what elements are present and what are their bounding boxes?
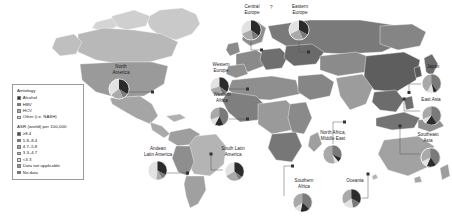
legend-swatch-hcv [17, 109, 21, 113]
leader-line-north-africa-middle-east [332, 118, 346, 146]
legend-item-asr-4: 3.3–4.7 [17, 150, 80, 156]
legend-label-asr-1: ≥8.4 [23, 131, 31, 137]
leader-line-andean-latin-america [167, 168, 191, 178]
legend-swatch-asr-1 [17, 132, 21, 136]
region-label-central-europe: CentralEurope [236, 4, 268, 16]
pie-chart-north-africa-middle-east [322, 144, 343, 165]
leader-line-southeast-asia [396, 124, 422, 158]
legend-label-hbv: HBV [23, 102, 32, 108]
legend-label-asr-2: 5.8–8.4 [23, 138, 37, 144]
legend-item-hcv: HCV [17, 108, 80, 114]
region-label-eastern-europe: EasternEurope [284, 4, 316, 16]
leader-line-eastern-europe [299, 40, 311, 58]
leader-line-western-africa [229, 114, 251, 124]
pie-chart-central-europe [240, 19, 262, 41]
legend-label-asr-3: 4.7–5.8 [23, 144, 37, 150]
legend-item-asr-3: 4.7–5.8 [17, 144, 80, 150]
legend-label-no-data: No data [23, 170, 38, 176]
legend-item-no-data: No data [17, 170, 80, 176]
legend-swatch-asr-5 [17, 158, 21, 162]
legend-item-data-not-applicable: Data not applicable [17, 163, 80, 169]
pie-chart-western-africa [209, 106, 230, 127]
legend-swatch-asr-3 [17, 145, 21, 149]
region-label-western-europe: WesternEurope [204, 62, 238, 74]
landmass-siberia-east [380, 24, 426, 50]
region-label-andean-latin-america: AndeanLatin America [134, 146, 182, 158]
legend-asr-title: ASR (world) per 100,000 [17, 124, 80, 130]
leader-line-central-europe [251, 40, 263, 56]
legend-item-asr-2: 5.8–8.4 [17, 138, 80, 144]
legend-swatch-no-data [17, 171, 21, 175]
pie-chart-southeast-asia [420, 147, 441, 168]
pie-chart-oceania [341, 188, 362, 209]
legend-item-other: Other (i.e. NASH) [17, 114, 80, 120]
legend-swatch-other [17, 116, 21, 120]
legend-item-asr-5: <3.3 [17, 157, 80, 163]
legend-swatch-hbv [17, 103, 21, 107]
pie-chart-east-asia [421, 105, 442, 126]
pie-chart-southern-africa [292, 192, 313, 213]
leader-line-japan [405, 80, 423, 94]
pie-chart-japan [421, 73, 442, 94]
legend-label-data-not-applicable: Data not applicable [23, 163, 60, 169]
leader-line-southern-africa [280, 162, 294, 198]
pie-chart-andean-latin-america [147, 160, 168, 181]
question-mark-annotation: ? [270, 5, 273, 10]
region-label-north-america: NorthAmerica [104, 64, 138, 76]
legend-swatch-asr-2 [17, 139, 21, 143]
liver-cancer-world-map-figure: Aetiology Alcohol HBV HCV Other (i.e. NA… [0, 0, 452, 219]
region-label-japan: Japan [420, 64, 446, 70]
leader-line-east-asia [398, 95, 422, 115]
region-label-western-africa: WesternAfrica [206, 92, 238, 104]
legend-label-hcv: HCV [23, 108, 32, 114]
legend-aetiology-title: Aetiology [17, 88, 80, 94]
legend-item-alcohol: Alcohol [17, 95, 80, 101]
legend-swatch-data-not-applicable [17, 164, 21, 168]
legend-panel: Aetiology Alcohol HBV HCV Other (i.e. NA… [12, 84, 84, 180]
legend-label-alcohol: Alcohol [23, 95, 37, 101]
legend-swatch-alcohol [17, 96, 21, 100]
legend-item-asr-1: ≥8.4 [17, 131, 80, 137]
legend-label-other: Other (i.e. NASH) [23, 114, 57, 120]
legend-label-asr-4: 3.3–4.7 [23, 150, 37, 156]
leader-line-south-latin-america [205, 152, 225, 174]
leader-line-oceania [360, 172, 374, 200]
legend-swatch-asr-4 [17, 152, 21, 156]
leader-line-north-america [128, 86, 156, 98]
legend-label-asr-5: <3.3 [23, 157, 32, 163]
pie-chart-south-latin-america [224, 161, 245, 182]
pie-chart-north-america [108, 78, 130, 100]
legend-item-hbv: HBV [17, 102, 80, 108]
pie-chart-eastern-europe [288, 19, 310, 41]
